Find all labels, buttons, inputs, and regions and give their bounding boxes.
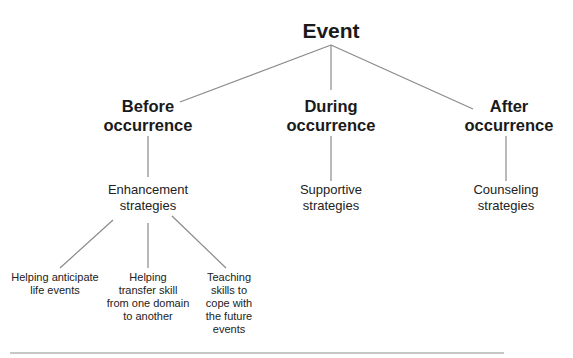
node-event: Event: [302, 19, 359, 43]
node-label-line: Helping anticipate: [11, 271, 98, 284]
diagram-canvas: Event Before occurrence During occurrenc…: [0, 0, 573, 358]
node-label-line: Enhancement: [108, 182, 188, 198]
node-enhancement-strategies: Enhancement strategies: [108, 182, 188, 214]
connector-lines: [0, 0, 573, 358]
node-label-line: the future: [206, 310, 252, 323]
node-label-line: occurrence: [287, 116, 376, 135]
node-label-line: During: [287, 97, 376, 116]
node-label-line: strategies: [300, 198, 362, 214]
node-during-occurrence: During occurrence: [287, 97, 376, 135]
node-label-line: life events: [11, 284, 98, 297]
edge-enhancement-leaf-3: [172, 216, 226, 268]
node-label-line: Helping: [107, 271, 190, 284]
node-helping-transfer: Helping transfer skill from one domain t…: [107, 271, 190, 323]
node-label-line: Before: [104, 97, 193, 116]
node-before-occurrence: Before occurrence: [104, 97, 193, 135]
node-label-line: strategies: [108, 198, 188, 214]
node-label-line: After: [465, 97, 554, 116]
node-label-line: Counseling: [473, 182, 538, 198]
node-counseling-strategies: Counseling strategies: [473, 182, 538, 214]
node-helping-anticipate: Helping anticipate life events: [11, 271, 98, 297]
node-supportive-strategies: Supportive strategies: [300, 182, 362, 214]
node-label-line: strategies: [473, 198, 538, 214]
node-label-line: from one domain: [107, 297, 190, 310]
node-label-line: occurrence: [465, 116, 554, 135]
node-teaching-skills: Teaching skills to cope with the future …: [206, 271, 252, 336]
node-label-line: transfer skill: [107, 284, 190, 297]
node-after-occurrence: After occurrence: [465, 97, 554, 135]
node-label-line: occurrence: [104, 116, 193, 135]
node-label-line: skills to: [206, 284, 252, 297]
node-label-line: Supportive: [300, 182, 362, 198]
node-label-line: events: [206, 323, 252, 336]
node-label-line: to another: [107, 310, 190, 323]
edge-enhancement-leaf-1: [60, 220, 113, 268]
edge-event-before: [180, 45, 331, 102]
node-event-label: Event: [302, 19, 359, 43]
node-label-line: cope with: [206, 297, 252, 310]
node-label-line: Teaching: [206, 271, 252, 284]
